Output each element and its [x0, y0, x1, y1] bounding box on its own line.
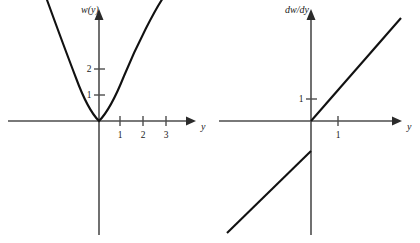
- right-x-axis-arrowhead: [392, 117, 402, 126]
- left-y-tick-label-1: 1: [87, 90, 92, 100]
- left-y-tick-label-2: 2: [87, 64, 92, 74]
- derivative-lower-segment: [227, 151, 311, 233]
- figure-container: 1 2 3 1 2 w(y) y 1 1: [0, 0, 420, 243]
- right-panel: 1 1 dw/dy y: [219, 4, 412, 235]
- parabola-curve: [47, 0, 163, 121]
- figure-svg: 1 2 3 1 2 w(y) y 1 1: [0, 0, 420, 243]
- right-horizontal-axis-label: y: [406, 121, 412, 132]
- right-vertical-axis-label: dw/dy: [285, 4, 309, 15]
- left-panel: 1 2 3 1 2 w(y) y: [8, 0, 206, 235]
- derivative-upper-segment: [311, 18, 401, 121]
- left-vertical-axis-label: w(y): [81, 4, 99, 16]
- left-x-tick-label-1: 1: [118, 130, 123, 140]
- right-y-tick-label-1: 1: [299, 94, 304, 104]
- left-x-tick-label-3: 3: [164, 130, 169, 140]
- left-horizontal-axis-label: y: [200, 121, 206, 132]
- right-x-tick-label-1: 1: [336, 130, 341, 140]
- left-x-axis-arrowhead: [186, 117, 196, 126]
- left-x-tick-label-2: 2: [141, 130, 146, 140]
